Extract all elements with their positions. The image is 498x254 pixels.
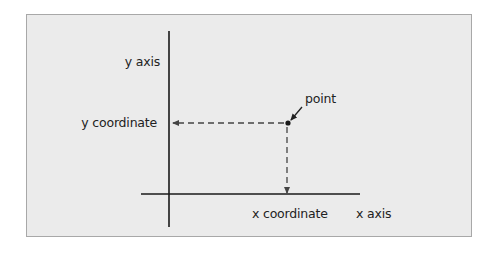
point-label: point [305,91,336,106]
y-coordinate-label: y coordinate [81,115,157,130]
x-axis-label: x axis [356,206,391,221]
y-axis-label: y axis [125,54,160,69]
x-coordinate-label: x coordinate [252,206,328,221]
point-marker [285,120,290,125]
coordinate-diagram: y axis y coordinate point x coordinate x… [0,0,498,254]
point-pointer-arrow [291,107,302,120]
